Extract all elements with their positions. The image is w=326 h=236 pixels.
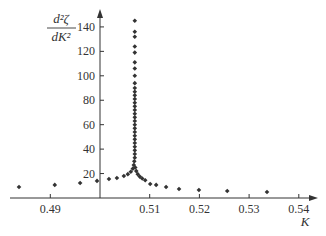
data-point-diamond-icon bbox=[132, 34, 137, 39]
data-points bbox=[17, 19, 270, 195]
data-point-diamond-icon bbox=[132, 159, 137, 164]
x-tick-label: 0.52 bbox=[189, 202, 210, 216]
data-point-diamond-icon bbox=[132, 86, 137, 91]
data-point-diamond-icon bbox=[265, 190, 270, 195]
y-tick-label: 140 bbox=[77, 20, 95, 34]
y-tick-label: 40 bbox=[83, 142, 95, 156]
data-point-diamond-icon bbox=[52, 183, 57, 188]
data-point-diamond-icon bbox=[17, 185, 22, 190]
data-point-diamond-icon bbox=[115, 176, 120, 181]
data-point-diamond-icon bbox=[132, 50, 137, 55]
y-tick-label: 60 bbox=[83, 118, 95, 132]
x-axis: 0.490.510.520.530.54 bbox=[10, 194, 318, 216]
y-tick-label: 80 bbox=[83, 93, 95, 107]
data-point-diamond-icon bbox=[122, 174, 127, 179]
data-point-diamond-icon bbox=[132, 44, 137, 49]
x-tick-label: 0.49 bbox=[40, 202, 61, 216]
data-point-diamond-icon bbox=[197, 188, 202, 193]
data-point-diamond-icon bbox=[132, 81, 137, 86]
data-point-diamond-icon bbox=[132, 60, 137, 65]
data-point-diamond-icon bbox=[148, 182, 153, 187]
data-point-diamond-icon bbox=[132, 74, 137, 79]
y-tick-label: 20 bbox=[83, 167, 95, 181]
scatter-chart: 0.490.510.520.530.54 20406080100120140 d… bbox=[0, 0, 326, 236]
y-axis: 20406080100120140 bbox=[77, 9, 104, 198]
data-point-diamond-icon bbox=[95, 179, 100, 184]
y-tick-label: 120 bbox=[77, 44, 95, 58]
data-point-diamond-icon bbox=[78, 181, 83, 186]
y-axis-arrow-icon bbox=[97, 9, 103, 18]
data-point-diamond-icon bbox=[132, 66, 137, 71]
y-axis-label-numerator: d²ζ bbox=[53, 11, 69, 26]
data-point-diamond-icon bbox=[154, 183, 159, 188]
x-axis-arrow-icon bbox=[309, 195, 318, 201]
x-tick-label: 0.53 bbox=[239, 202, 260, 216]
data-point-diamond-icon bbox=[177, 187, 182, 192]
data-point-diamond-icon bbox=[225, 189, 230, 194]
data-point-diamond-icon bbox=[164, 185, 169, 190]
x-tick-label: 0.51 bbox=[139, 202, 160, 216]
x-axis-label: K bbox=[300, 214, 311, 229]
data-point-diamond-icon bbox=[107, 177, 112, 182]
y-tick-label: 100 bbox=[77, 69, 95, 83]
y-axis-label: d²ζ dK² bbox=[47, 11, 76, 44]
data-point-diamond-icon bbox=[132, 30, 137, 35]
data-point-diamond-icon bbox=[132, 19, 137, 24]
y-axis-label-denominator: dK² bbox=[51, 29, 71, 44]
